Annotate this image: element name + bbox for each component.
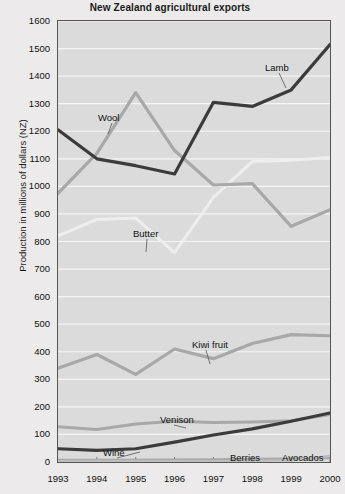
x-tick-1996: 1996 <box>155 473 195 484</box>
y-tick-300: 300 <box>4 374 50 384</box>
series-label-kiwi-fruit: Kiwi fruit <box>192 339 228 350</box>
y-tick-800: 800 <box>4 237 50 247</box>
series-label-venison: Venison <box>160 414 194 425</box>
plot-svg <box>58 21 330 462</box>
y-tick-1100: 1100 <box>4 154 50 164</box>
leader-line-venison <box>174 425 186 428</box>
y-tick-900: 900 <box>4 209 50 219</box>
y-tick-200: 200 <box>4 402 50 412</box>
y-tick-500: 500 <box>4 319 50 329</box>
x-tick-1993: 1993 <box>38 473 78 484</box>
y-tick-1300: 1300 <box>4 99 50 109</box>
y-tick-1500: 1500 <box>4 44 50 54</box>
y-tick-400: 400 <box>4 347 50 357</box>
x-tick-1997: 1997 <box>193 473 233 484</box>
y-tick-1000: 1000 <box>4 181 50 191</box>
y-tick-100: 100 <box>4 429 50 439</box>
series-label-berries: Berries <box>230 452 260 463</box>
series-label-butter: Butter <box>133 228 158 239</box>
x-tick-1995: 1995 <box>116 473 156 484</box>
y-tick-700: 700 <box>4 264 50 274</box>
leader-line-lamb <box>279 73 286 88</box>
series-line-wine <box>58 413 330 450</box>
series-label-wine: Wine <box>103 447 125 458</box>
series-line-lamb <box>58 44 330 174</box>
series-label-lamb: Lamb <box>265 62 289 73</box>
chart-title: New Zealand agricultural exports <box>0 2 340 13</box>
y-axis-tick-labels: 0100200300400500600700800900100011001200… <box>4 0 50 494</box>
x-tick-2000: 2000 <box>310 473 345 484</box>
plot-area <box>57 20 331 463</box>
series-line-butter <box>58 157 330 252</box>
x-tick-1998: 1998 <box>232 473 272 484</box>
x-tick-1994: 1994 <box>77 473 117 484</box>
series-label-wool: Wool <box>98 112 119 123</box>
y-tick-600: 600 <box>4 292 50 302</box>
y-tick-1600: 1600 <box>4 16 50 26</box>
y-tick-0: 0 <box>4 457 50 467</box>
series-label-avocados: Avocados <box>282 452 324 463</box>
x-tick-1999: 1999 <box>271 473 311 484</box>
y-tick-1400: 1400 <box>4 71 50 81</box>
y-tick-1200: 1200 <box>4 126 50 136</box>
